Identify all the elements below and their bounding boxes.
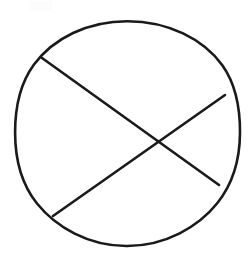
circle-chords-drawing [0,0,252,258]
figure-canvas [0,0,252,258]
circle-outline-path [15,21,240,246]
chord-upper-left-to-lower-right-path [42,58,219,185]
chord-lower-left-to-upper-right-path [53,95,225,216]
